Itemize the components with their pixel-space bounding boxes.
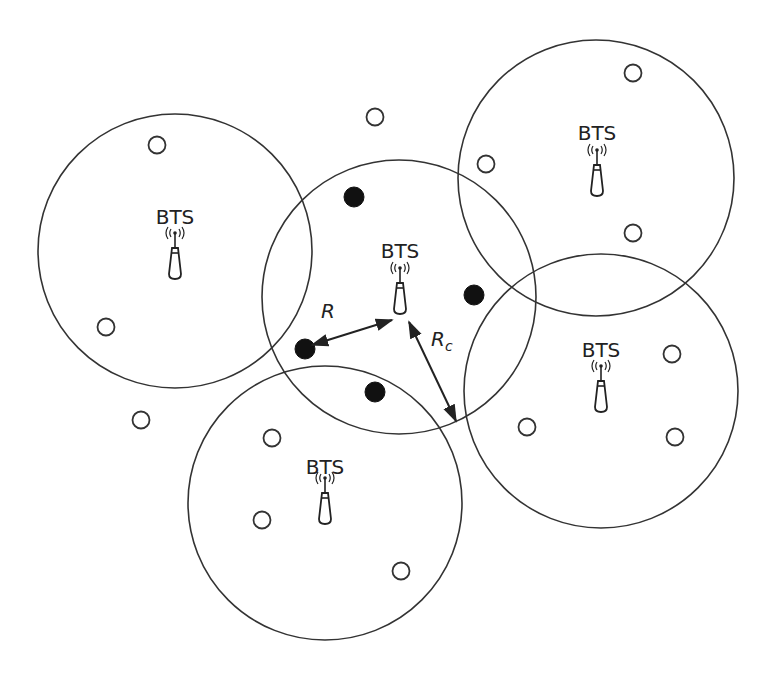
bts-left: BTS <box>156 205 195 279</box>
active-mobile-stations <box>295 187 484 402</box>
active-mobile-station <box>365 382 385 402</box>
radius-r-arrow: R <box>312 299 392 345</box>
idle-mobile-station <box>625 225 642 242</box>
base-stations: BTSBTSBTSBTSBTS <box>156 121 621 524</box>
bts-label: BTS <box>381 239 420 263</box>
coverage-cells <box>38 40 738 640</box>
r-arrow-line <box>312 320 392 345</box>
antenna-icon <box>166 227 184 279</box>
idle-mobile-station <box>367 109 384 126</box>
r-label: R <box>321 299 335 323</box>
bts-label: BTS <box>578 121 617 145</box>
bts-top-right: BTS <box>578 121 617 196</box>
rc-label: Rc <box>431 327 453 354</box>
antenna-icon <box>588 144 606 196</box>
idle-mobile-station <box>519 419 536 436</box>
active-mobile-station <box>344 187 364 207</box>
idle-mobile-station <box>264 430 281 447</box>
idle-mobile-station <box>667 429 684 446</box>
idle-mobile-station <box>625 65 642 82</box>
cellular-network-diagram: BTSBTSBTSBTSBTS R Rc <box>0 0 771 677</box>
radius-rc-arrow: Rc <box>409 322 456 421</box>
idle-mobile-station <box>149 137 166 154</box>
idle-mobile-station <box>254 512 271 529</box>
antenna-icon <box>391 262 409 314</box>
idle-mobile-station <box>393 563 410 580</box>
bts-label: BTS <box>156 205 195 229</box>
active-mobile-station <box>464 285 484 305</box>
bts-bottom: BTS <box>306 455 345 524</box>
idle-mobile-station <box>664 346 681 363</box>
bts-bottom-right: BTS <box>582 338 621 412</box>
idle-mobile-station <box>478 156 495 173</box>
bts-label: BTS <box>582 338 621 362</box>
active-mobile-station <box>295 339 315 359</box>
idle-mobile-station <box>133 412 150 429</box>
idle-mobile-station <box>98 319 115 336</box>
antenna-icon <box>592 360 610 412</box>
rc-label-subscript: c <box>445 338 453 354</box>
rc-label-main: R <box>431 327 445 351</box>
antenna-icon <box>316 472 334 524</box>
bts-center: BTS <box>381 239 420 314</box>
bts-label: BTS <box>306 455 345 479</box>
